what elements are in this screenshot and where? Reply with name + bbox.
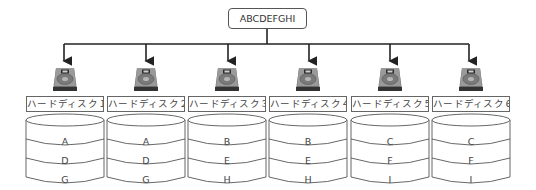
disk-label: ハードディスク１	[26, 96, 104, 112]
block-row-1: C	[350, 136, 430, 147]
block-row-3: I	[431, 174, 511, 185]
block-row-1: A	[25, 136, 105, 147]
disk-label: ハードディスク４	[269, 96, 347, 112]
hard-disk-icon	[377, 66, 403, 92]
block-row-2: D	[106, 155, 186, 166]
block-row-3: I	[350, 174, 430, 185]
block-row-1: B	[268, 136, 348, 147]
block-row-3: G	[106, 174, 186, 185]
block-row-2: D	[25, 155, 105, 166]
block-row-3: H	[187, 174, 267, 185]
disk-6: ハードディスク６ C F I	[431, 0, 511, 190]
block-row-2: E	[187, 155, 267, 166]
block-row-3: G	[25, 174, 105, 185]
block-row-2: E	[268, 155, 348, 166]
disk-label: ハードディスク６	[432, 96, 510, 112]
disk-1: ハードディスク１ A D G	[25, 0, 105, 190]
disk-4: ハードディスク４ B E H	[268, 0, 348, 190]
block-row-2: F	[350, 155, 430, 166]
hard-disk-icon	[214, 66, 240, 92]
block-row-3: H	[268, 174, 348, 185]
disk-2: ハードディスク２ A D G	[106, 0, 186, 190]
block-row-1: C	[431, 136, 511, 147]
hard-disk-icon	[458, 66, 484, 92]
hard-disk-icon	[295, 66, 321, 92]
disk-label: ハードディスク３	[188, 96, 266, 112]
disk-label: ハードディスク５	[351, 96, 429, 112]
disk-5: ハードディスク５ C F I	[350, 0, 430, 190]
block-row-1: B	[187, 136, 267, 147]
hard-disk-icon	[52, 66, 78, 92]
block-row-2: F	[431, 155, 511, 166]
hard-disk-icon	[133, 66, 159, 92]
disk-3: ハードディスク３ B E H	[187, 0, 267, 190]
disk-label: ハードディスク２	[107, 96, 185, 112]
block-row-1: A	[106, 136, 186, 147]
